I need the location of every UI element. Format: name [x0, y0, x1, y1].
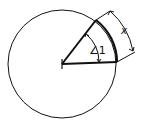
radius-horizontal [62, 62, 117, 64]
angle-label: ∠1 [89, 44, 106, 57]
dimension-arrowhead-bottom [129, 47, 134, 51]
extension-line-top [96, 11, 110, 20]
circle-sector-diagram: ∠1 x [0, 0, 141, 128]
extension-line-bottom [117, 52, 135, 62]
arc-length-label: x [120, 25, 127, 36]
radius-upper [62, 20, 96, 64]
